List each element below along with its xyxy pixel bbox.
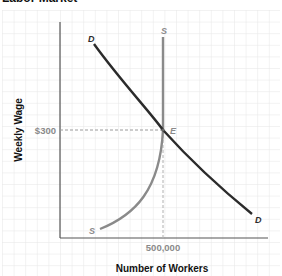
supply-label-top: S: [161, 26, 167, 36]
demand-label-top: D: [88, 34, 95, 44]
chart-canvas: D D S S E $300 500,000 Number of Workers…: [0, 0, 282, 276]
x-axis-title: Number of Workers: [116, 263, 209, 274]
equilibrium-label: E: [170, 126, 177, 136]
y-axis-title: Weekly Wage: [13, 98, 24, 162]
equilibrium-point: [161, 128, 164, 131]
grid-background: [2, 10, 280, 276]
y-tick-label: $300: [35, 125, 56, 136]
demand-label-bottom: D: [255, 215, 262, 225]
supply-label-bottom: S: [89, 226, 95, 236]
x-tick-label: 500,000: [146, 242, 180, 253]
